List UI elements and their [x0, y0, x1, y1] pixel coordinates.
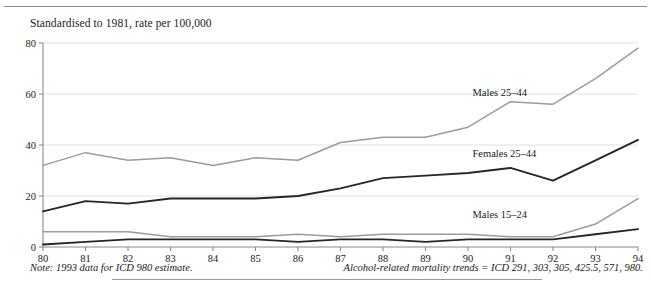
- y-tick-label: 60: [14, 89, 36, 100]
- note-right: Alcohol-related mortality trends = ICD 2…: [344, 262, 643, 273]
- y-tick-label: 40: [14, 140, 36, 151]
- plot-area: [43, 43, 638, 247]
- top-rule: [4, 6, 647, 7]
- chart-axis-title: Standardised to 1981, rate per 100,000: [30, 17, 212, 29]
- series-line: [43, 48, 638, 165]
- series-label: Males 15–24: [473, 209, 528, 220]
- y-tick-label: 0: [14, 242, 36, 253]
- chart-canvas: [43, 43, 638, 247]
- series-line: [43, 140, 638, 211]
- chart-figure: Standardised to 1981, rate per 100,000 0…: [0, 0, 651, 286]
- series-label: Females 25–44: [473, 148, 537, 159]
- x-tick-label: 86: [293, 253, 304, 264]
- y-tick-label: 20: [14, 191, 36, 202]
- series-label: Males 25–44: [473, 87, 528, 98]
- y-tick-label: 80: [14, 38, 36, 49]
- x-tick-label: 84: [208, 253, 219, 264]
- bottom-rule: [112, 279, 542, 280]
- note-left: Note: 1993 data for ICD 980 estimate.: [30, 262, 192, 273]
- series-line: [43, 199, 638, 237]
- x-tick-label: 85: [250, 253, 261, 264]
- y-axis-labels: 020406080: [14, 0, 36, 286]
